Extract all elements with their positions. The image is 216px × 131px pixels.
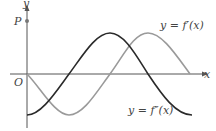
- point-p-label: P: [13, 15, 22, 28]
- point-p: [25, 19, 29, 23]
- curve-f-prime-label: y = f′(x): [159, 19, 204, 32]
- y-axis-label: y: [22, 0, 30, 10]
- x-axis-label: x: [204, 68, 211, 81]
- curve-f-double-prime-label: y = f″(x): [127, 104, 173, 117]
- diagram: x y O P y = f′(x) y = f″(x): [0, 0, 216, 131]
- origin-label: O: [14, 76, 23, 89]
